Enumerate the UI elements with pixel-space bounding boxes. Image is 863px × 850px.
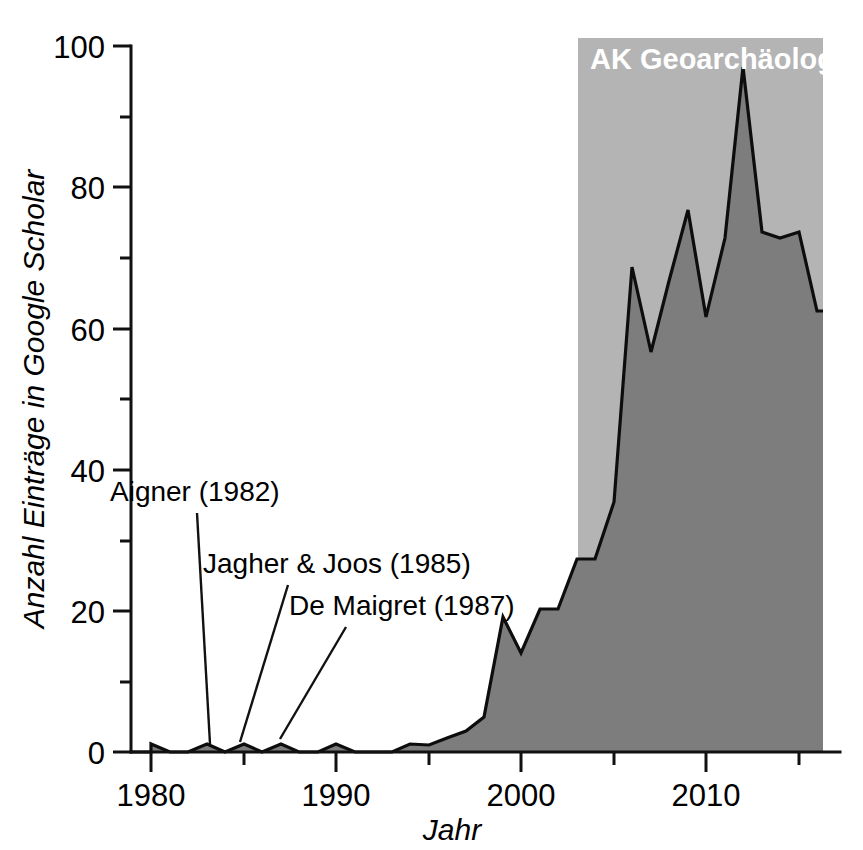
y-tick-label-20: 20	[71, 595, 105, 630]
annotation-aigner: Aigner (1982)	[110, 476, 280, 507]
x-tick-label-2010: 2010	[672, 778, 741, 813]
band-label-ak-geoarchaeologie: AK Geoarchäologie	[590, 43, 859, 75]
chart-canvas: 100 80 60 40 20 0 1980 1990 2000 2010 An…	[0, 0, 863, 850]
y-axis-title: Anzahl Einträge in Google Scholar	[17, 169, 50, 631]
y-tick-label-0: 0	[88, 736, 105, 771]
chart-figure: 100 80 60 40 20 0 1980 1990 2000 2010 An…	[0, 0, 863, 850]
y-tick-label-40: 40	[71, 454, 105, 489]
y-tick-label-80: 80	[71, 171, 105, 206]
leader-line-de-maigret	[280, 627, 346, 739]
annotation-de-maigret: De Maigret (1987)	[289, 590, 515, 621]
annotation-jagher-joos: Jagher & Joos (1985)	[203, 548, 471, 579]
leader-line-jagher-joos	[240, 585, 288, 742]
x-tick-label-2000: 2000	[487, 778, 556, 813]
x-tick-label-1980: 1980	[117, 778, 186, 813]
x-tick-label-1990: 1990	[302, 778, 371, 813]
y-tick-label-60: 60	[71, 313, 105, 348]
y-tick-label-100: 100	[53, 30, 105, 65]
x-axis-title: Jahr	[422, 813, 482, 846]
